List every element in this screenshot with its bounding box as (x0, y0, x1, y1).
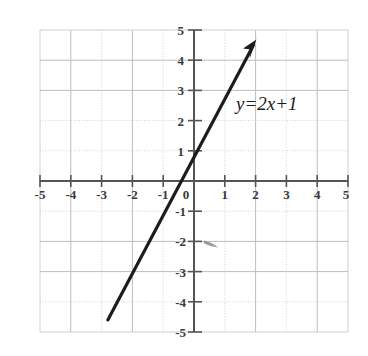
x-tick-label: 1 (222, 187, 229, 202)
y-tick-label: 2 (178, 114, 185, 129)
y-tick-label: -1 (175, 204, 186, 219)
x-tick-label: 5 (343, 187, 350, 202)
y-tick-label: -3 (175, 265, 186, 280)
y-tick-label: -2 (175, 234, 186, 249)
coordinate-plane-svg: -5 -4 -3 -2 -1 0 1 2 3 4 5 5 4 3 2 1 -1 … (0, 0, 368, 356)
x-tick-label: -3 (96, 187, 107, 202)
y-tick-label: 4 (178, 53, 185, 68)
x-tick-label: -4 (65, 187, 76, 202)
x-tick-label: 2 (252, 187, 259, 202)
x-tick-label: 4 (314, 187, 321, 202)
equation-label: y=2x+1 (234, 93, 298, 114)
y-tick-label: 3 (178, 83, 185, 98)
graph-figure: -5 -4 -3 -2 -1 0 1 2 3 4 5 5 4 3 2 1 -1 … (0, 0, 368, 356)
y-tick-label: -4 (175, 295, 186, 310)
origin-label: 0 (183, 187, 190, 202)
y-tick-label: -5 (175, 325, 186, 340)
x-tick-label: 3 (283, 187, 290, 202)
x-tick-label: -2 (127, 187, 138, 202)
y-tick-label: 1 (178, 144, 185, 159)
x-tick-label: -5 (35, 187, 46, 202)
y-tick-label: 5 (178, 23, 185, 38)
x-tick-label: -1 (158, 187, 169, 202)
